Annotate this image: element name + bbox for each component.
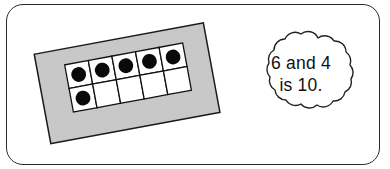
ten-frame-cell-10 [163, 67, 191, 95]
figure-root: 6 and 4 is 10. [0, 0, 390, 169]
illustration-canvas [0, 0, 390, 169]
speech-bubble-shape [267, 32, 353, 108]
ten-frame-card-group [34, 23, 220, 144]
